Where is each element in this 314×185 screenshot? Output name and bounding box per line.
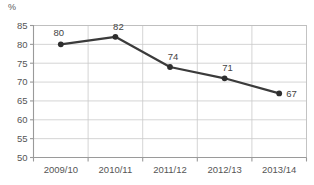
y-tick-label: 85 — [17, 20, 28, 31]
series-data-label: 74 — [168, 51, 179, 62]
y-tick-label: 60 — [17, 114, 28, 125]
line-chart: 5055606570758085 2009/102010/112011/1220… — [0, 0, 314, 185]
series-marker-point — [58, 41, 64, 47]
vertical-gridlines — [88, 26, 252, 158]
x-tick-label: 2012/13 — [207, 164, 241, 175]
x-tick-label: 2013/14 — [262, 164, 296, 175]
y-tick-label: 70 — [17, 76, 28, 87]
series-marker-point — [113, 34, 119, 40]
plot-area-border — [34, 26, 307, 158]
series-data-label: 71 — [222, 62, 233, 73]
series-markers — [58, 34, 282, 96]
y-tick-label: 50 — [17, 152, 28, 163]
series-data-label: 82 — [113, 21, 124, 32]
y-tick-label: 55 — [17, 133, 28, 144]
y-tick-label: 65 — [17, 95, 28, 106]
y-axis-tick-labels: 5055606570758085 — [17, 20, 28, 163]
series-data-label: 80 — [54, 27, 65, 38]
chart-screenshot: % 5055606570758085 2009/102010/112011/12… — [0, 0, 314, 185]
x-axis-tick-labels: 2009/102010/112011/122012/132013/14 — [44, 164, 297, 175]
x-tick-label: 2010/11 — [99, 164, 133, 175]
series-data-label: 67 — [286, 88, 297, 99]
series-marker-point — [222, 75, 228, 81]
y-tick-label: 75 — [17, 58, 28, 69]
x-axis-ticks — [34, 158, 307, 162]
x-tick-label: 2009/10 — [44, 164, 78, 175]
series-marker-point — [276, 90, 282, 96]
y-tick-label: 80 — [17, 39, 28, 50]
x-tick-label: 2011/12 — [153, 164, 187, 175]
series-marker-point — [167, 64, 173, 70]
